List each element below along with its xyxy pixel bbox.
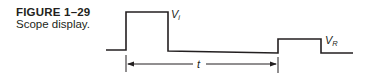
reflected-voltage-label: VR — [325, 34, 338, 48]
incident-voltage-label: Vi — [171, 8, 180, 22]
time-interval-label: t — [197, 58, 201, 70]
scope-waveform-diagram: t Vi VR — [0, 0, 370, 76]
arrowhead-left-icon — [127, 62, 134, 67]
waveform-trace — [106, 12, 353, 53]
arrowhead-right-icon — [270, 62, 277, 67]
